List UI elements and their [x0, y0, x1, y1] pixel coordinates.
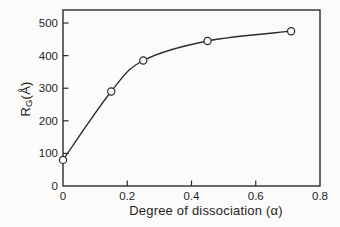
y-axis-title-unit: (Å)	[18, 81, 33, 99]
y-tick-label: 0	[52, 180, 58, 192]
y-tick-label: 500	[39, 17, 58, 29]
y-axis-title-main: R	[18, 107, 33, 117]
data-point-marker	[204, 37, 211, 44]
y-tick-label: 400	[39, 50, 58, 62]
y-axis-title-sub: G	[23, 99, 34, 107]
y-tick-label: 200	[39, 115, 58, 127]
y-tick-label: 100	[39, 147, 58, 159]
data-point-marker	[140, 57, 147, 64]
data-point-marker	[288, 28, 295, 35]
data-point-marker	[108, 88, 115, 95]
chart-figure: 010020030040050000.20.40.60.8 RG(Å) Degr…	[0, 0, 340, 227]
data-curve	[63, 31, 291, 160]
data-point-marker	[59, 156, 66, 163]
plot-frame	[63, 10, 320, 186]
x-tick-label: 0.4	[184, 190, 201, 202]
x-tick-label: 0	[60, 190, 66, 202]
x-tick-label: 0.6	[248, 190, 264, 202]
x-tick-label: 0.8	[312, 190, 328, 202]
y-axis-title: RG(Å)	[18, 81, 34, 116]
x-axis-title: Degree of dissociation (α)	[129, 203, 283, 218]
x-tick-label: 0.2	[119, 190, 135, 202]
y-tick-label: 300	[39, 82, 58, 94]
chart-svg: 010020030040050000.20.40.60.8	[0, 0, 340, 227]
